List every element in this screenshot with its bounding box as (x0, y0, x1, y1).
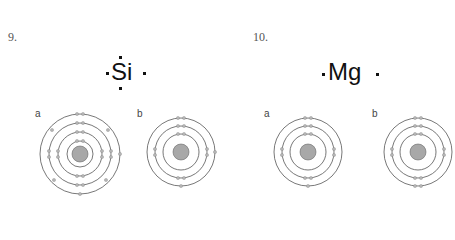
question-number-9: 9. (8, 30, 17, 45)
element-symbol-si: Si (111, 58, 132, 86)
nucleus (300, 144, 316, 160)
lewis-dot-right (143, 72, 146, 75)
question-number-10: 10. (253, 30, 268, 45)
lewis-dot-left (322, 73, 325, 76)
option-label-10b[interactable]: b (372, 108, 378, 119)
bohr-model-si-b[interactable] (141, 112, 221, 192)
lewis-structure-si: Si (103, 55, 147, 91)
bohr-model-mg-a[interactable] (268, 112, 348, 192)
element-symbol-mg: Mg (328, 58, 361, 86)
bohr-model-mg-b[interactable] (378, 112, 455, 192)
bohr-model-si-a[interactable] (30, 104, 130, 204)
lewis-dot-bottom (119, 87, 122, 90)
lewis-dot-right (376, 73, 379, 76)
lewis-structure-mg: Mg (322, 58, 392, 90)
lewis-dot-left (106, 72, 109, 75)
lewis-dot-top (119, 56, 122, 59)
nucleus (173, 144, 189, 160)
nucleus (72, 146, 88, 162)
nucleus (410, 144, 426, 160)
